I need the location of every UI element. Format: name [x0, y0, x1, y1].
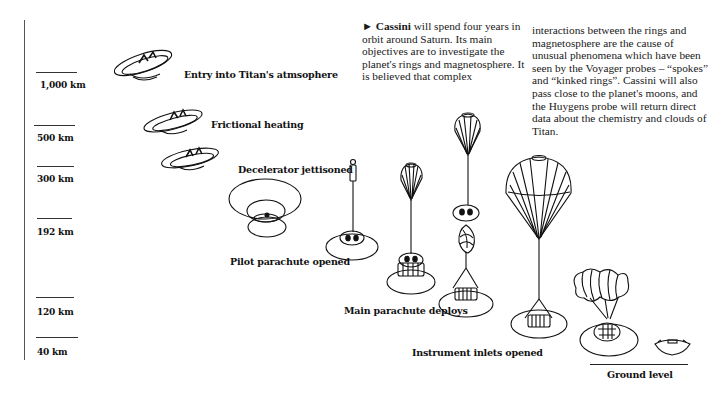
probe-on-ground-icon: [655, 340, 690, 355]
probe-decelerator-icon: [229, 179, 301, 237]
probe-main-parachute-icon: [387, 163, 435, 294]
probe-landing-icon: [574, 269, 638, 356]
probe-drogue-release-icon: [439, 113, 493, 317]
probe-instrument-inlets-icon: [506, 156, 571, 339]
probe-pre-jettison-icon: [160, 144, 220, 172]
probe-entry-icon: [112, 45, 175, 81]
probe-pilot-parachute-icon: [326, 160, 378, 261]
probe-heating-icon: [142, 106, 204, 137]
